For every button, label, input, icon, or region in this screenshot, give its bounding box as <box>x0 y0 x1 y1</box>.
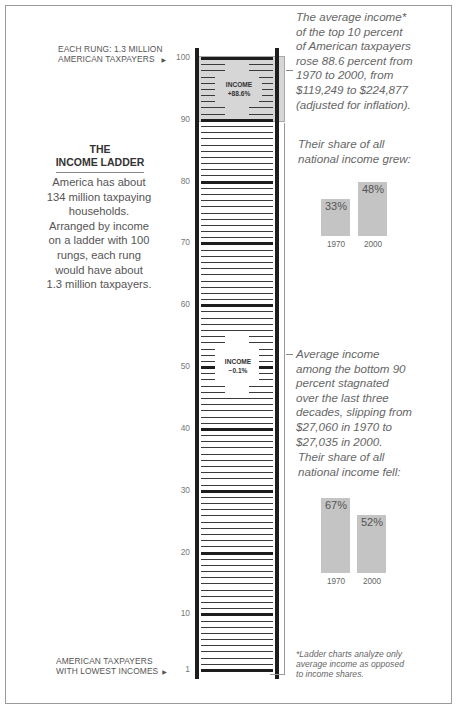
share-bar-year: 1970 <box>321 577 351 586</box>
top-ten-description: The average income*of the top 10 percent… <box>296 10 456 112</box>
rung-number-label: 90 <box>168 114 190 124</box>
ladder-rung <box>201 639 273 640</box>
ladder-rung <box>201 311 273 312</box>
bottom-bracket-line <box>284 123 285 675</box>
ladder-rung <box>201 613 273 616</box>
ladder-rung <box>201 664 273 665</box>
ladder-rung <box>249 336 273 337</box>
footnote: *Ladder charts analyze onlyaverage incom… <box>296 649 456 680</box>
ladder-rung <box>201 658 273 659</box>
rung-number-label: 50 <box>168 361 190 371</box>
title-line2: INCOME LADDER <box>56 156 145 173</box>
ladder-rung <box>201 540 273 541</box>
rung-number-label: 70 <box>168 237 190 247</box>
bottom-income-value: −0.1% <box>214 367 262 376</box>
rung-number-label: 60 <box>168 299 190 309</box>
ladder-rung <box>201 342 225 343</box>
ladder-rung <box>201 441 273 442</box>
share-bar-value: 67% <box>321 499 351 511</box>
rung-number-label: 10 <box>168 608 190 618</box>
ladder-rung <box>201 485 273 486</box>
share-bar-year: 1970 <box>321 240 351 249</box>
ladder-rung <box>201 138 273 139</box>
bottom-share-heading-line: national income fell: <box>298 465 458 480</box>
bottom-income-change: INCOME −0.1% <box>214 358 262 375</box>
top-rung-label: EACH RUNG: 1.3 MILLION AMERICAN TAXPAYER… <box>58 44 178 65</box>
ladder-rung <box>249 70 273 71</box>
ladder-rung <box>201 633 273 634</box>
ladder-rung <box>201 602 273 603</box>
intro-text: America has about134 million taxpayingho… <box>16 175 182 292</box>
footnote-line: *Ladder charts analyze only <box>296 649 456 659</box>
arrow-right-icon: ▶ <box>162 669 167 675</box>
ladder-rung <box>201 145 273 146</box>
ladder-rung <box>201 559 273 560</box>
ladder-rung <box>201 151 273 152</box>
bottom-rung-label: AMERICAN TAXPAYERS WITH LOWEST INCOMES▶ <box>56 656 181 677</box>
ladder-rung <box>201 571 273 572</box>
ladder-rung <box>201 577 273 578</box>
bottom-description-line: among the bottom 90 <box>296 362 456 377</box>
ladder-rung <box>249 107 273 108</box>
bottom-description-line: Average income <box>296 347 456 362</box>
ladder-rung <box>259 355 273 356</box>
ladder-rung <box>201 522 273 523</box>
bottom-rung-label-line1: AMERICAN TAXPAYERS <box>56 656 181 666</box>
ladder-rung <box>201 534 273 535</box>
ladder-right-rail <box>275 48 279 679</box>
ladder-rung <box>201 454 273 455</box>
top-share-heading-line: national income grew: <box>298 152 458 167</box>
ladder-rung <box>201 404 273 405</box>
ladder-rung <box>201 95 215 96</box>
rung-number-label: 40 <box>168 423 190 433</box>
title-line1: THE <box>20 143 180 156</box>
ladder-rung <box>259 379 273 380</box>
rung-number-label: 30 <box>168 485 190 495</box>
ladder-rung <box>201 89 215 90</box>
ladder-rung <box>201 101 215 102</box>
ladder-rung <box>201 596 273 597</box>
ladder-rung <box>201 515 273 516</box>
rung-number-label: 20 <box>168 547 190 557</box>
bottom-description-line: $27,060 in 1970 to <box>296 420 456 435</box>
ladder-rung <box>201 428 273 431</box>
top-description-line: of the top 10 percent <box>296 25 456 40</box>
ladder-rung <box>201 447 273 448</box>
top-share-heading: Their share of allnational income grew: <box>298 137 458 166</box>
ladder-rung <box>201 417 273 418</box>
ladder-rung <box>201 219 273 220</box>
intro-line: would have about <box>16 263 182 278</box>
ladder-rung <box>201 274 273 275</box>
ladder-rung <box>201 318 273 319</box>
top-income-label: INCOME <box>216 81 262 90</box>
ladder-rung <box>201 163 273 164</box>
top-rung-label-line2: AMERICAN TAXPAYERS▶ <box>58 54 178 65</box>
ladder-rung <box>201 627 273 628</box>
ladder-rung <box>201 361 215 362</box>
share-bar-value: 33% <box>321 200 351 212</box>
ladder-rung <box>201 237 273 238</box>
rung-number-label: 1 <box>168 664 190 674</box>
share-bar-value: 48% <box>358 183 388 195</box>
intro-line: households. <box>16 204 182 219</box>
ladder-rung <box>201 231 273 232</box>
ladder-rung <box>201 349 215 350</box>
share-bar-year: 2000 <box>358 240 388 249</box>
bottom-description-line: $27,035 in 2000. <box>296 435 456 450</box>
ladder-rung <box>201 379 215 380</box>
ladder-rung <box>201 114 225 115</box>
ladder-rung <box>201 256 273 257</box>
ladder-rung <box>201 268 273 269</box>
intro-line: 1.3 million taxpayers. <box>16 277 182 292</box>
ladder-rung <box>201 107 225 108</box>
ladder-rung <box>201 503 273 504</box>
ladder-rung <box>201 423 273 424</box>
top-share-heading-line: Their share of all <box>298 137 458 152</box>
footnote-line: to income shares. <box>296 669 456 679</box>
ladder-rung <box>201 621 273 622</box>
ladder-rung <box>201 324 273 325</box>
ladder-rung <box>259 77 273 78</box>
rung-number-label: 100 <box>168 52 190 62</box>
ladder-rung <box>201 546 273 547</box>
ladder-rung <box>201 126 273 127</box>
